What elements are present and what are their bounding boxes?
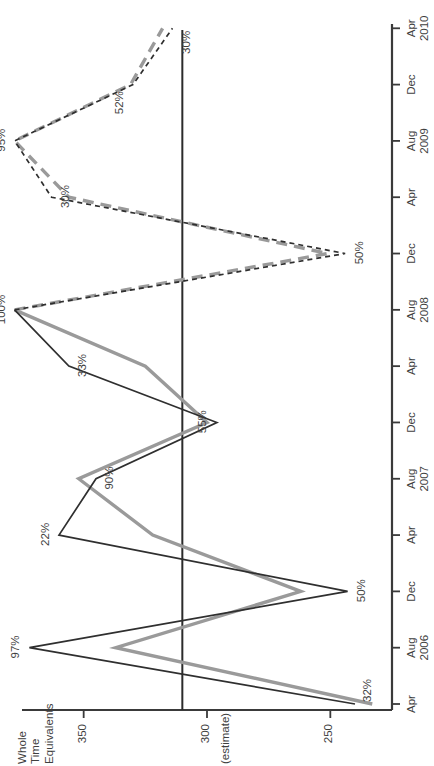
x-tick-label: Apr: [405, 678, 418, 730]
x-tick-label-year: 2010: [418, 2, 431, 54]
x-tick-label-year: 2008: [418, 284, 431, 336]
plot-area: WholeTimeEquivalents 350300250 (estimate…: [0, 0, 434, 766]
x-tick-marks: [392, 28, 400, 704]
x-tick-label: Apr: [405, 171, 418, 223]
x-tick-label-month: Dec: [405, 565, 418, 617]
x-tick-label: Aug2006: [405, 622, 431, 674]
chart-canvas: WholeTimeEquivalents 350300250 (estimate…: [0, 0, 434, 766]
y-axis-title-line: Equivalents: [43, 703, 56, 764]
series-dark-solid: [15, 310, 355, 704]
point-label: 90%: [103, 467, 115, 490]
x-tick-label-year: 2006: [418, 622, 431, 674]
point-label: 50%: [355, 579, 367, 602]
series-grey-solid: [15, 310, 373, 704]
y-axis-title: WholeTimeEquivalents: [16, 703, 56, 764]
point-label: 22%: [39, 523, 51, 546]
x-tick-label-month: Apr: [405, 171, 418, 223]
x-tick-label: Apr: [405, 509, 418, 561]
y-tick-label: 250: [322, 724, 334, 756]
x-tick-label: Dec: [405, 59, 418, 111]
y-tick-label: 300: [199, 724, 211, 756]
point-label: 30%: [180, 31, 192, 54]
point-label: 100%: [0, 295, 7, 324]
point-label: 30%: [59, 185, 71, 208]
x-tick-label: Dec: [405, 565, 418, 617]
x-tick-label: Aug2007: [405, 453, 431, 505]
series-grey-dashed: [15, 28, 328, 310]
x-tick-label: Apr: [405, 340, 418, 392]
x-tick-label-month: Apr: [405, 678, 418, 730]
estimate-note: (estimate): [219, 713, 231, 764]
x-tick-label: Dec: [405, 396, 418, 448]
x-tick-label-year: 2009: [418, 115, 431, 167]
x-tick-label-month: Aug: [405, 115, 418, 167]
point-label: 55%: [196, 410, 208, 433]
x-tick-label-month: Dec: [405, 228, 418, 280]
x-tick-label-year: 2007: [418, 453, 431, 505]
x-tick-label: Apr2010: [405, 2, 431, 54]
x-tick-label: Aug2009: [405, 115, 431, 167]
x-tick-label-month: Dec: [405, 396, 418, 448]
x-tick-label-month: Dec: [405, 59, 418, 111]
x-tick-label-month: Aug: [405, 453, 418, 505]
x-tick-label: Aug2008: [405, 284, 431, 336]
x-tick-label-month: Apr: [405, 2, 418, 54]
x-tick-label-month: Aug: [405, 622, 418, 674]
y-tick-label: 350: [76, 724, 88, 756]
point-label: 50%: [353, 241, 365, 264]
point-label: 52%: [113, 91, 125, 114]
point-label: 95%: [0, 129, 7, 152]
rotated-chart-group: WholeTimeEquivalents 350300250 (estimate…: [0, 0, 434, 766]
y-axis-title-line: Time: [29, 703, 42, 764]
x-tick-label-month: Aug: [405, 284, 418, 336]
x-tick-label-month: Apr: [405, 340, 418, 392]
y-tick-marks: [84, 710, 331, 718]
x-tick-label: Dec: [405, 228, 418, 280]
y-axis-title-line: Whole: [16, 703, 29, 764]
point-label: 33%: [76, 354, 88, 377]
line-chart-svg: [0, 0, 434, 766]
point-label: 32%: [361, 679, 373, 702]
x-tick-label-month: Apr: [405, 509, 418, 561]
point-label: 97%: [9, 635, 21, 658]
series-dark-dashed: [15, 28, 346, 310]
